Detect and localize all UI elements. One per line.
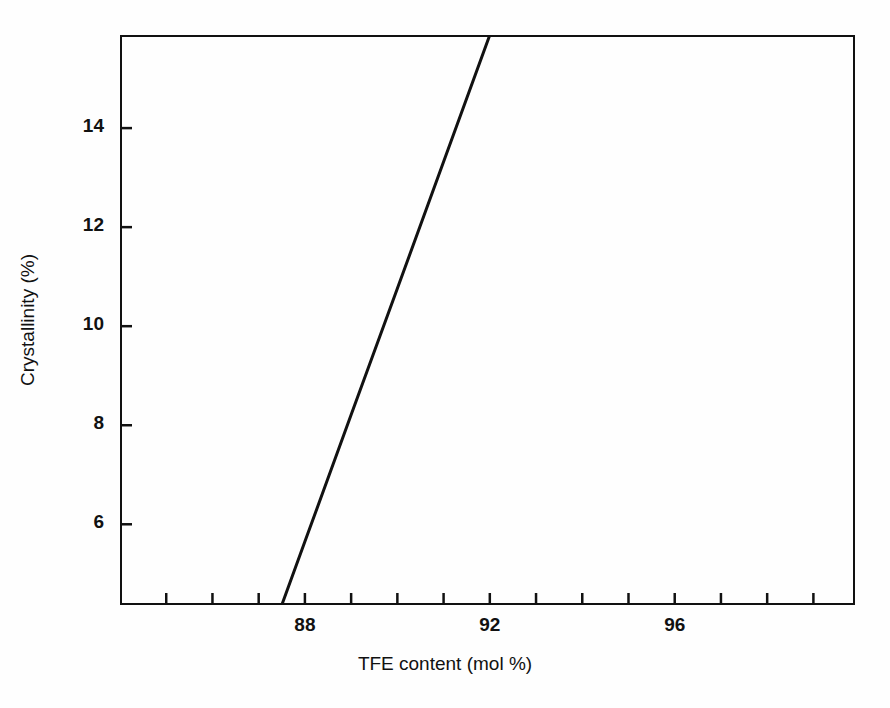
x-axis-title: TFE content (mol %): [0, 653, 890, 675]
x-tick-label: 88: [265, 614, 345, 636]
y-tick-label: 6: [93, 511, 104, 533]
y-tick-label: 14: [83, 115, 104, 137]
y-tick-label: 10: [83, 313, 104, 335]
x-tick-label: 96: [635, 614, 715, 636]
x-tick-label: 92: [450, 614, 530, 636]
y-tick-label: 12: [83, 214, 104, 236]
y-axis-title: Crystallinity (%): [17, 254, 39, 386]
y-tick-label: 8: [93, 412, 104, 434]
plot-area: [120, 35, 855, 605]
figure-canvas: 68101214 889296 Crystallinity (%) TFE co…: [0, 0, 890, 708]
y-axis-title-wrap: Crystallinity (%): [10, 35, 46, 605]
